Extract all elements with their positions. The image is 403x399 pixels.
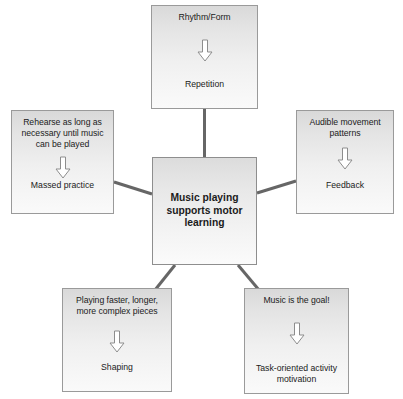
node-bottom-left-title: Playing faster, longer, more complex pie… (63, 295, 171, 317)
node-top[interactable]: Rhythm/Form Repetition (151, 5, 258, 109)
node-right-result: Feedback (297, 180, 393, 191)
node-bottom-right[interactable]: Music is the goal! Task-oriented activit… (244, 288, 349, 394)
node-bottom-right-result: Task-oriented activity motivation (245, 363, 348, 385)
node-left[interactable]: Rehearse as long as necessary until musi… (11, 110, 114, 214)
down-arrow-icon (55, 156, 71, 179)
diagram-canvas: Rhythm/Form Repetition Rehearse as long … (0, 0, 403, 399)
down-arrow-icon (289, 322, 305, 345)
node-center-line-3: learning (184, 217, 224, 228)
connector-center-to-bottom-left (155, 265, 175, 290)
down-arrow-icon (109, 330, 125, 353)
node-center-line-2: supports motor (166, 205, 242, 216)
node-bottom-left[interactable]: Playing faster, longer, more complex pie… (62, 288, 172, 392)
connector-center-to-bottom-right (238, 265, 259, 290)
node-bottom-right-title: Music is the goal! (245, 295, 348, 306)
node-top-title: Rhythm/Form (152, 12, 257, 23)
node-center[interactable]: Music playing supports motor learning (152, 157, 257, 265)
node-center-label: Music playing supports motor learning (153, 192, 256, 230)
node-right-title: Audible movement patterns (297, 117, 393, 139)
node-left-title: Rehearse as long as necessary until musi… (12, 117, 113, 150)
node-bottom-left-result: Shaping (63, 362, 171, 373)
connector-center-to-left (114, 182, 152, 194)
down-arrow-icon (197, 39, 213, 62)
node-left-result: Massed practice (12, 180, 113, 191)
node-top-result: Repetition (152, 79, 257, 90)
node-center-line-1: Music playing (170, 192, 238, 203)
down-arrow-icon (337, 147, 353, 170)
node-right[interactable]: Audible movement patterns Feedback (296, 110, 394, 214)
connector-center-to-right (257, 181, 296, 193)
